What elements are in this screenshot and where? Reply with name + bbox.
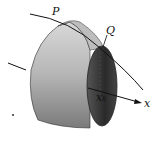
- label-Q: Q: [106, 25, 115, 36]
- diagram-graphics: [0, 0, 152, 141]
- axis-left-stub: [8, 63, 26, 70]
- frustum-opening: [87, 46, 117, 126]
- label-xk-sub: k: [102, 95, 106, 103]
- label-xk: xk: [96, 92, 106, 103]
- x-axis-arrowhead: [134, 99, 142, 104]
- frustum-surface: [30, 22, 90, 128]
- label-P: P: [52, 6, 59, 17]
- frustum-diagram: P Q xk x: [0, 0, 152, 141]
- stray-dot: [12, 114, 14, 116]
- label-x-axis: x: [144, 98, 150, 109]
